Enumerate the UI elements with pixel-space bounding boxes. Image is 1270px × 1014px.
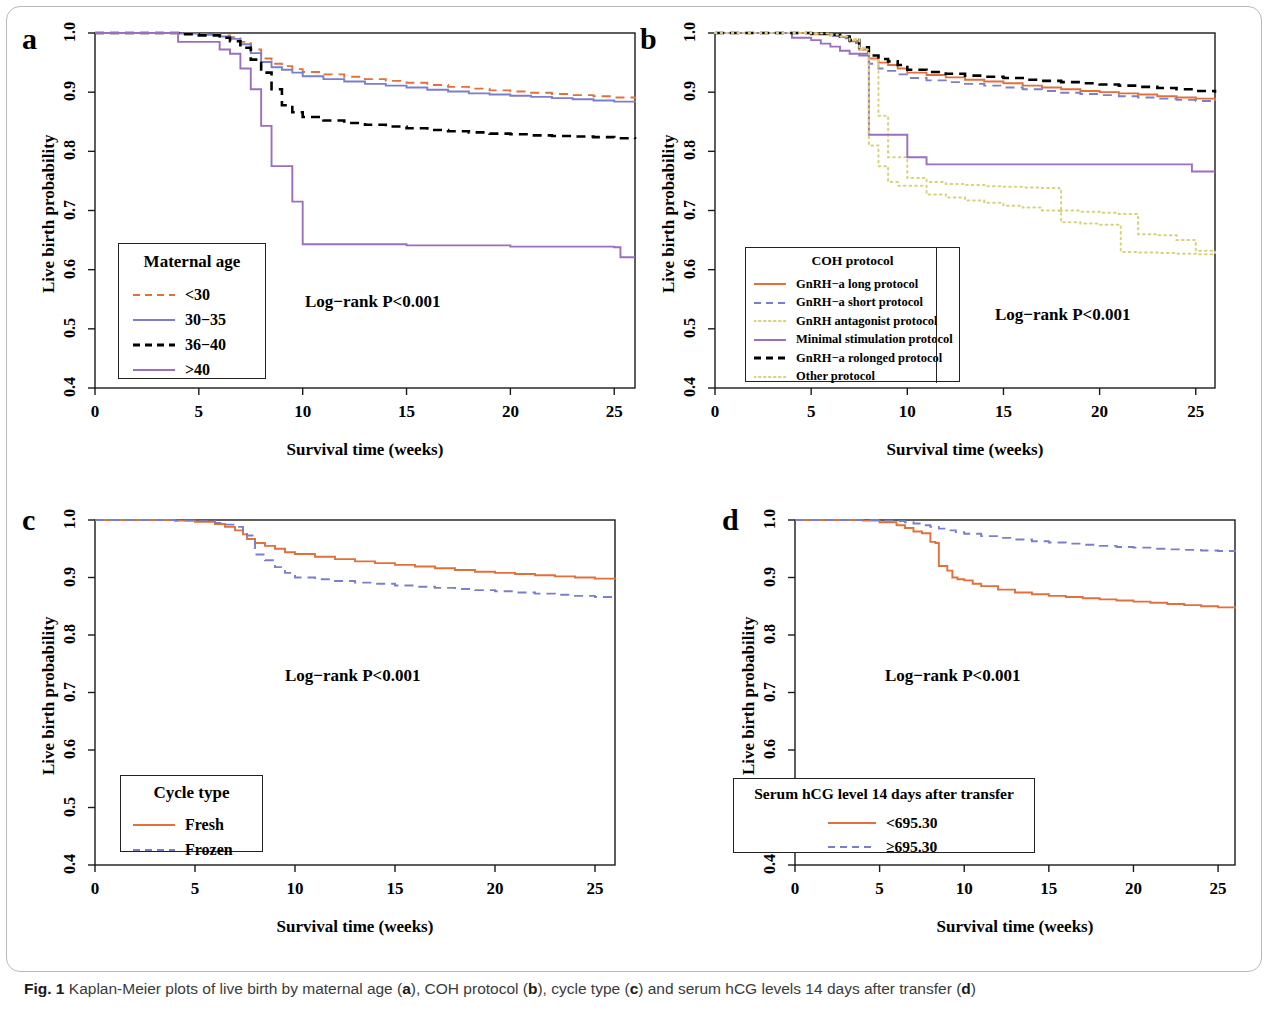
legend-item-label: Fresh bbox=[185, 816, 224, 834]
x-tick-label: 5 bbox=[179, 402, 219, 422]
y-tick-label: 0.9 bbox=[681, 74, 699, 108]
legend-item-label: GnRH−a long protocol bbox=[796, 277, 918, 292]
y-axis-label-b: Live birth probability bbox=[659, 134, 679, 292]
x-tick-label: 0 bbox=[75, 879, 115, 899]
km-curve-b-3 bbox=[715, 33, 1215, 171]
legend-item[interactable]: GnRH−a short protocol bbox=[746, 294, 959, 313]
panel-letter-b: b bbox=[640, 24, 657, 54]
legend-items-b: GnRH−a long protocolGnRH−a short protoco… bbox=[746, 275, 959, 386]
x-tick-label: 15 bbox=[387, 402, 427, 422]
x-tick-label: 10 bbox=[283, 402, 323, 422]
legend-items-d: <695.30≥695.30 bbox=[734, 811, 1034, 859]
legend-item-label: <695.30 bbox=[886, 814, 937, 832]
x-tick-label: 0 bbox=[75, 402, 115, 422]
legend-item[interactable]: >40 bbox=[119, 357, 265, 382]
legend-item-label: GnRH−a rolonged protocol bbox=[796, 351, 942, 366]
y-tick-label: 0.8 bbox=[61, 617, 79, 651]
y-tick-label: 0.6 bbox=[61, 732, 79, 766]
km-curve-a-1 bbox=[95, 33, 635, 102]
legend-title-d: Serum hCG level 14 days after transfer bbox=[734, 785, 1034, 803]
legend-line-swatch bbox=[133, 286, 175, 304]
x-tick-label: 5 bbox=[175, 879, 215, 899]
legend-item[interactable]: Minimal stimulation protocol bbox=[746, 331, 959, 350]
legend-item[interactable]: <30 bbox=[119, 282, 265, 307]
legend-line-swatch bbox=[133, 311, 175, 329]
legend-line-swatch bbox=[828, 838, 876, 856]
legend-divider bbox=[936, 248, 937, 383]
panel-letter-c: c bbox=[22, 505, 35, 535]
x-tick-label: 0 bbox=[695, 402, 735, 422]
x-tick-label: 25 bbox=[575, 879, 615, 899]
y-tick-label: 0.4 bbox=[61, 370, 79, 404]
km-curve-b-1 bbox=[715, 33, 1215, 102]
x-tick-label: 10 bbox=[887, 402, 927, 422]
logrank-annotation-c: Log−rank P<0.001 bbox=[285, 666, 421, 686]
km-curve-c-0 bbox=[95, 520, 615, 579]
logrank-annotation-b: Log−rank P<0.001 bbox=[995, 305, 1131, 325]
x-tick-label: 25 bbox=[594, 402, 634, 422]
legend-item[interactable]: Other protocol bbox=[746, 368, 959, 387]
legend-item-label: GnRH antagonist protocol bbox=[796, 314, 937, 329]
x-tick-label: 15 bbox=[1029, 879, 1069, 899]
km-curve-a-3 bbox=[95, 33, 635, 257]
legend-item-label: 36−40 bbox=[185, 336, 226, 354]
legend-item[interactable]: 36−40 bbox=[119, 332, 265, 357]
x-axis-label-d: Survival time (weeks) bbox=[795, 917, 1235, 937]
legend-item[interactable]: Fresh bbox=[121, 812, 262, 837]
legend-a: Maternal age<3030−3536−40>40 bbox=[118, 243, 266, 379]
x-tick-label: 25 bbox=[1176, 402, 1216, 422]
legend-line-swatch bbox=[754, 331, 786, 349]
legend-item[interactable]: ≥695.30 bbox=[734, 835, 1034, 859]
legend-item-label: Minimal stimulation protocol bbox=[796, 332, 953, 347]
legend-item[interactable]: GnRH antagonist protocol bbox=[746, 312, 959, 331]
km-curve-b-5 bbox=[715, 33, 1215, 253]
legend-item[interactable]: <695.30 bbox=[734, 811, 1034, 835]
logrank-annotation-d: Log−rank P<0.001 bbox=[885, 666, 1021, 686]
legend-item[interactable]: 30−35 bbox=[119, 307, 265, 332]
caption-panel-ref: a bbox=[402, 980, 411, 997]
legend-items-a: <3030−3536−40>40 bbox=[119, 282, 265, 382]
y-tick-label: 0.7 bbox=[61, 675, 79, 709]
y-axis-label-c: Live birth probability bbox=[39, 616, 59, 774]
caption-panel-ref: d bbox=[961, 980, 970, 997]
y-tick-label: 1.0 bbox=[61, 502, 79, 536]
y-tick-label: 1.0 bbox=[761, 502, 779, 536]
x-tick-label: 0 bbox=[775, 879, 815, 899]
y-tick-label: 0.9 bbox=[61, 74, 79, 108]
x-tick-label: 10 bbox=[944, 879, 984, 899]
legend-item-label: Other protocol bbox=[796, 369, 875, 384]
y-tick-label: 0.5 bbox=[61, 311, 79, 345]
legend-item-label: Frozen bbox=[185, 841, 233, 859]
panel-letter-d: d bbox=[722, 505, 739, 535]
legend-item-label: 30−35 bbox=[185, 311, 226, 329]
legend-item-label: >40 bbox=[185, 361, 210, 379]
x-tick-label: 15 bbox=[375, 879, 415, 899]
legend-line-swatch bbox=[133, 336, 175, 354]
y-tick-label: 0.7 bbox=[761, 675, 779, 709]
figure-caption: Fig. 1 Kaplan-Meier plots of live birth … bbox=[24, 980, 1254, 998]
x-axis-label-b: Survival time (weeks) bbox=[715, 440, 1215, 460]
x-axis-label-c: Survival time (weeks) bbox=[95, 917, 615, 937]
y-tick-label: 1.0 bbox=[61, 15, 79, 49]
y-tick-label: 0.9 bbox=[761, 560, 779, 594]
x-tick-label: 15 bbox=[983, 402, 1023, 422]
y-tick-label: 0.6 bbox=[681, 252, 699, 286]
logrank-annotation-a: Log−rank P<0.001 bbox=[305, 292, 441, 312]
legend-item[interactable]: GnRH−a rolonged protocol bbox=[746, 349, 959, 368]
x-tick-label: 5 bbox=[791, 402, 831, 422]
y-tick-label: 0.5 bbox=[681, 311, 699, 345]
km-curve-d-0 bbox=[795, 520, 1235, 609]
km-curve-a-0 bbox=[95, 33, 635, 99]
x-tick-label: 10 bbox=[275, 879, 315, 899]
y-axis-label-d: Live birth probability bbox=[739, 616, 759, 774]
y-tick-label: 0.7 bbox=[61, 193, 79, 227]
x-tick-label: 20 bbox=[490, 402, 530, 422]
legend-line-swatch bbox=[133, 841, 175, 859]
km-curve-b-2 bbox=[715, 33, 1215, 255]
caption-panel-ref: b bbox=[528, 980, 537, 997]
legend-item[interactable]: GnRH−a long protocol bbox=[746, 275, 959, 294]
legend-c: Cycle typeFreshFrozen bbox=[120, 775, 263, 852]
legend-title-c: Cycle type bbox=[121, 783, 262, 803]
y-tick-label: 1.0 bbox=[681, 15, 699, 49]
legend-item[interactable]: Frozen bbox=[121, 837, 262, 862]
